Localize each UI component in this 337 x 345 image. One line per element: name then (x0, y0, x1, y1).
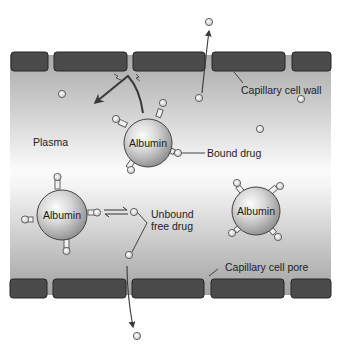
albumin-label: Albumin (237, 205, 275, 217)
free-drug-molecule (195, 94, 202, 101)
albumin-label: Albumin (129, 137, 167, 149)
wall-block (211, 279, 284, 298)
albumin-label: Albumin (43, 209, 81, 221)
free-drug-molecule (58, 90, 65, 97)
free-drug-molecule (297, 95, 304, 102)
capillary-wall-label: Capillary cell wall (241, 84, 322, 96)
free-drug-molecule (205, 18, 212, 25)
wall-block (132, 279, 204, 298)
bottom-capillary-wall (10, 279, 331, 298)
wall-block (212, 52, 285, 71)
wall-block (10, 279, 47, 298)
unbound-label-line1: Unbound (151, 208, 194, 220)
wall-block (53, 279, 126, 298)
free-drug-molecule (256, 125, 263, 132)
wall-block (291, 279, 331, 298)
unbound-label-line2: free drug (151, 220, 193, 232)
albumin-protein-3: Albumin (228, 179, 283, 240)
free-drug-molecule (133, 332, 140, 339)
capillary-diagram: Albumin Bound drug Albumin Unbound free … (0, 0, 337, 345)
wall-block (292, 52, 331, 71)
unbound-free-drug-molecule (125, 251, 132, 258)
top-capillary-wall (11, 52, 331, 71)
unbound-free-drug-molecule (130, 208, 137, 215)
wall-block (54, 52, 127, 71)
wall-block (11, 52, 48, 71)
capillary-pore-label: Capillary cell pore (225, 261, 309, 273)
plasma-label: Plasma (33, 136, 68, 148)
wall-block (133, 52, 205, 71)
bound-drug-label: Bound drug (207, 147, 261, 159)
